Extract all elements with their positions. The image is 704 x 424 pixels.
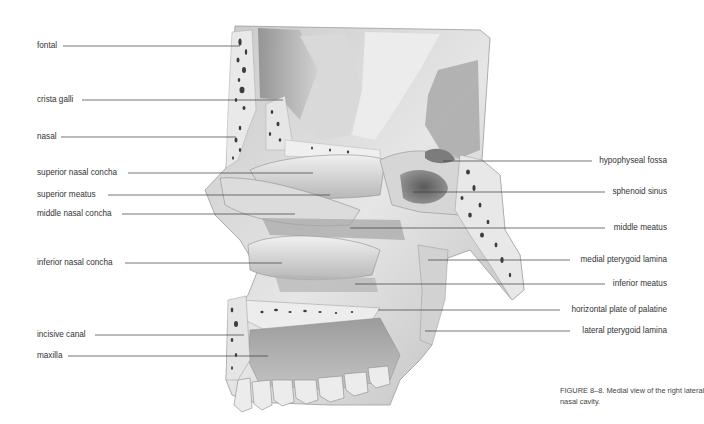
label-inferior-nasal-concha: inferior nasal concha xyxy=(37,258,113,268)
label-incisive-canal: incisive canal xyxy=(37,330,86,340)
label-sphenoid-sinus: sphenoid sinus xyxy=(612,187,667,197)
label-lateral-pterygoid-lamina: lateral pterygoid lamina xyxy=(582,326,667,336)
label-nasal: nasal xyxy=(37,132,57,142)
caption-line-1: FIGURE 8–8. Medial view of the right lat… xyxy=(560,385,704,396)
figure-caption: FIGURE 8–8. Medial view of the right lat… xyxy=(560,385,704,407)
label-medial-pterygoid-lamina: medial pterygoid lamina xyxy=(581,255,667,265)
label-hypophyseal-fossa: hypophyseal fossa xyxy=(599,156,667,166)
label-frontal: fontal xyxy=(37,41,57,51)
label-crista-galli: crista galli xyxy=(37,95,73,105)
label-inferior-meatus: inferior meatus xyxy=(613,279,667,289)
label-maxilla: maxilla xyxy=(37,351,62,361)
caption-line-2: nasal cavity. xyxy=(560,396,704,407)
label-middle-nasal-concha: middle nasal concha xyxy=(37,209,112,219)
label-middle-meatus: middle meatus xyxy=(614,223,667,233)
anatomy-figure: fontal crista galli nasal superior nasal… xyxy=(0,0,704,424)
label-superior-nasal-concha: superior nasal concha xyxy=(37,168,117,178)
label-superior-meatus: superior meatus xyxy=(37,190,96,200)
label-horizontal-plate-of-palatine: horizontal plate of palatine xyxy=(571,305,667,315)
